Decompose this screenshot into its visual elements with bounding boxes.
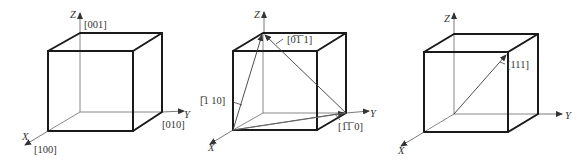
x-axis: [401, 132, 424, 146]
z-axis-label: Z: [254, 9, 260, 20]
z-axis-label: Z: [444, 13, 450, 24]
z-axis-label: Z: [70, 9, 76, 20]
figure-cube-axes: Z [001] Y [010] X [100]: [21, 9, 191, 155]
direction-label-010: [010]: [162, 119, 185, 130]
x-axis-label: X: [397, 145, 405, 156]
cube-top-face: [424, 34, 538, 52]
figure-cube-face-diagonals: Z Y X [0̅1̅ 1] [̅1 10] [1̅1̅ 0]: [200, 9, 377, 153]
y-axis: [346, 111, 369, 113]
y-axis-label: Y: [565, 110, 572, 121]
vector-0minus11: [265, 35, 346, 113]
direction-label-1minus10: [1̅1̅ 0]: [338, 121, 363, 132]
x-axis-label: X: [207, 142, 215, 153]
hidden-edge: [233, 113, 346, 130]
hidden-edge: [424, 114, 454, 132]
direction-label-111: [111]: [507, 59, 529, 70]
y-axis: [162, 111, 184, 112]
y-axis-label: Y: [184, 109, 191, 120]
cube-front-face: [233, 51, 317, 130]
cube-front-face: [424, 52, 508, 132]
y-axis-label: Y: [370, 108, 377, 119]
leader-line: [276, 39, 283, 44]
vector-111: [454, 55, 506, 114]
crystal-directions-diagram: Z [001] Y [010] X [100] Z Y X [0̅1̅ 1] […: [0, 0, 583, 164]
x-axis: [25, 131, 48, 145]
direction-label-minus110: [̅1 10]: [200, 95, 225, 106]
direction-label-0minus11: [0̅1̅ 1]: [287, 34, 312, 45]
leader-line: [500, 62, 505, 64]
cube-top-face: [48, 33, 162, 51]
direction-label-100: [100]: [34, 144, 57, 155]
direction-label-001: [001]: [84, 19, 107, 30]
cube-front-face: [48, 51, 133, 131]
figure-cube-body-diagonal: Z Y X [111]: [397, 13, 572, 156]
x-axis-label: X: [21, 131, 29, 142]
hidden-edge: [48, 112, 80, 131]
